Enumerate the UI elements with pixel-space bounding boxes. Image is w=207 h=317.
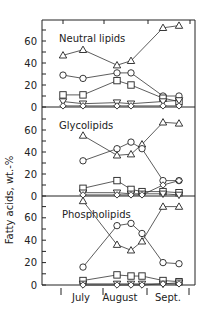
y-ticks: 020406002040600204060 (24, 30, 46, 291)
y-tick-label: 20 (24, 169, 37, 180)
panel-title-glyco: Glycolipids (59, 120, 113, 131)
y-tick-label: 20 (24, 80, 37, 91)
y-tick-label: 60 (24, 212, 37, 223)
data-series (59, 22, 182, 288)
y-tick-label: 40 (24, 147, 37, 158)
triangle-marker-icon (159, 119, 166, 125)
diamond-marker-icon (114, 103, 120, 109)
circle-marker-icon (114, 70, 120, 76)
circle-marker-icon (114, 146, 120, 152)
circle-marker-icon (60, 72, 66, 78)
circle-marker-icon (139, 230, 145, 236)
series-circle (80, 220, 182, 270)
series-triangle (59, 22, 182, 68)
y-tick-label: 0 (31, 191, 37, 202)
square-marker-icon (114, 77, 120, 83)
y-tick-label: 40 (24, 58, 37, 69)
circle-marker-icon (176, 261, 182, 267)
y-tick-label: 60 (24, 125, 37, 136)
circle-marker-icon (80, 158, 86, 164)
panel-title-neutral: Neutral lipids (59, 33, 125, 44)
triangle-marker-icon (79, 46, 86, 52)
square-marker-icon (114, 272, 120, 278)
triangle-marker-icon (138, 238, 145, 244)
y-tick-label: 60 (24, 36, 37, 47)
square-marker-icon (128, 82, 134, 88)
circle-marker-icon (128, 70, 134, 76)
y-tick-label: 0 (31, 102, 37, 113)
square-marker-icon (60, 92, 66, 98)
triangle-marker-icon (79, 197, 86, 203)
diamond-marker-icon (160, 103, 166, 109)
circle-marker-icon (128, 220, 134, 226)
triangle-marker-icon (127, 247, 134, 253)
month-label-august: August (103, 292, 138, 303)
square-marker-icon (139, 273, 145, 279)
triangle-marker-icon (175, 203, 182, 209)
fatty-acid-chart: 020406002040600204060 Neutral lipids Gly… (0, 0, 207, 317)
series-circle (80, 139, 182, 184)
square-marker-icon (114, 177, 120, 183)
circle-marker-icon (114, 222, 120, 228)
square-marker-icon (128, 273, 134, 279)
y-tick-label: 20 (24, 257, 37, 268)
y-axis-label: Fatty acids, wt.-% (4, 156, 15, 245)
circle-marker-icon (80, 264, 86, 270)
month-label-july: July (71, 292, 90, 303)
circle-marker-icon (139, 146, 145, 152)
triangle-marker-icon (79, 132, 86, 138)
diamond-marker-icon (60, 103, 66, 109)
series-diamond (60, 103, 182, 109)
circle-marker-icon (128, 139, 134, 145)
y-tick-label: 0 (31, 280, 37, 291)
top-ticks (63, 20, 190, 24)
y-tick-label: 40 (24, 235, 37, 246)
circle-marker-icon (80, 75, 86, 81)
triangle-marker-icon (159, 203, 166, 209)
square-marker-icon (80, 92, 86, 98)
month-label-sept: Sept. (155, 292, 181, 303)
triangle-marker-icon (175, 22, 182, 28)
circle-marker-icon (160, 259, 166, 265)
